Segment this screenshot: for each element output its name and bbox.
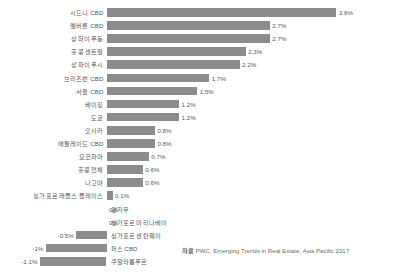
category-label: 싱가포르 마리나베이 (111, 216, 167, 229)
bar (107, 165, 143, 174)
category-label: 도쿄 (91, 111, 103, 124)
value-label: 2.3% (248, 45, 262, 58)
chart-bar-row: 서울 CBD1.5% (0, 85, 393, 98)
category-label: 싱가포르 래플스 플레이스 (33, 189, 103, 202)
category-label: 상하이 푸동 (71, 32, 103, 45)
bar (76, 231, 106, 240)
bar (107, 47, 246, 56)
category-label: 상하이 푸시 (71, 58, 103, 71)
value-label: 0.7% (151, 150, 165, 163)
chart-bar-row: 홍콩 전체0.6% (0, 163, 393, 176)
chart-bar-row: 베이징1.2% (0, 98, 393, 111)
category-label: 베이징 (85, 98, 103, 111)
bar (107, 139, 155, 148)
bar-track (0, 255, 393, 268)
bar (107, 21, 270, 30)
category-label: 싱가포르 센탄웨이 (111, 229, 161, 242)
category-label: 요코하마 (79, 150, 103, 163)
bar (107, 191, 113, 200)
bar (107, 8, 337, 17)
source-text: PWC, Emerging Trends in Real Estate, Asi… (196, 247, 349, 254)
source-tag: 자료 (182, 247, 194, 254)
chart-bar-row: 광저우0% (0, 203, 393, 216)
chart-bar-row: 상하이 푸시2.2% (0, 58, 393, 71)
bar-track (0, 216, 393, 229)
chart-bar-row: 상하이 푸동2.7% (0, 32, 393, 45)
bar-track (0, 124, 393, 137)
chart-bar-row: 싱가포르 센탄웨이-0.5% (0, 229, 393, 242)
source-citation: 자료 PWC, Emerging Trends in Real Estate, … (182, 246, 349, 255)
bar (107, 178, 143, 187)
chart-bar-row: 싱가포르 마리나베이0% (0, 216, 393, 229)
bar (107, 100, 180, 109)
chart-bar-row: 요코하마0.7% (0, 150, 393, 163)
bar-track (0, 98, 393, 111)
chart-bar-row: 싱가포르 래플스 플레이스0.1% (0, 189, 393, 202)
bar-track (0, 6, 393, 19)
bar (107, 113, 180, 122)
bar-track (0, 163, 393, 176)
value-label: 0.8% (157, 124, 171, 137)
chart-bar-row: 애들레이드 CBD0.8% (0, 137, 393, 150)
bar-track (0, 72, 393, 85)
bar (107, 126, 155, 135)
bar-track (0, 19, 393, 32)
value-label: 0.6% (145, 176, 159, 189)
category-label: 서울 CBD (76, 85, 103, 98)
value-label: 0% (109, 203, 118, 216)
value-label: 0% (109, 216, 118, 229)
category-label: 나고야 (85, 176, 103, 189)
value-label: -1.1% (21, 255, 37, 268)
bar-track (0, 176, 393, 189)
value-label: 0.8% (157, 137, 171, 150)
bar-track (0, 111, 393, 124)
value-label: 0.6% (145, 163, 159, 176)
chart-bar-row: 홍콩 센트럴2.3% (0, 45, 393, 58)
category-label: 홍콩 센트럴 (71, 45, 103, 58)
category-label: 퍼스 CBD (111, 242, 138, 255)
category-label: 쿠알라룸푸르 (111, 255, 147, 268)
chart-bar-row: 나고야0.6% (0, 176, 393, 189)
bar-track (0, 32, 393, 45)
category-label: 멜버른 CBD (70, 19, 103, 32)
chart-bar-row: 멜버른 CBD2.7% (0, 19, 393, 32)
value-label: 2.7% (272, 19, 286, 32)
chart-bar-row: 도쿄1.2% (0, 111, 393, 124)
category-label: 오사카 (85, 124, 103, 137)
value-label: 3.8% (339, 6, 353, 19)
chart-bar-row: 오사카0.8% (0, 124, 393, 137)
value-label: -0.5% (58, 229, 74, 242)
category-label: 시드니 CBD (70, 6, 103, 19)
bar (107, 152, 149, 161)
bar-track (0, 85, 393, 98)
bar-track (0, 150, 393, 163)
bar (107, 87, 198, 96)
bar (40, 257, 107, 266)
bar-track (0, 45, 393, 58)
category-label: 애들레이드 CBD (58, 137, 103, 150)
value-label: 1.2% (182, 98, 196, 111)
value-label: 1.7% (212, 72, 226, 85)
chart-bar-row: 시드니 CBD3.8% (0, 6, 393, 19)
bar-track (0, 58, 393, 71)
value-label: 0.1% (115, 189, 129, 202)
bar (107, 74, 210, 83)
value-label: 1.2% (182, 111, 196, 124)
value-label: 1.5% (200, 85, 214, 98)
value-label: 2.7% (272, 32, 286, 45)
value-label: 2.2% (242, 58, 256, 71)
bar (46, 244, 107, 253)
category-label: 브리즈번 CBD (64, 72, 103, 85)
bar-track (0, 203, 393, 216)
chart-bar-row: 쿠알라룸푸르-1.1% (0, 255, 393, 268)
value-label: -1% (32, 242, 43, 255)
chart-bar-row: 브리즈번 CBD1.7% (0, 72, 393, 85)
category-label: 홍콩 전체 (78, 163, 104, 176)
horizontal-bar-chart: 시드니 CBD3.8%멜버른 CBD2.7%상하이 푸동2.7%홍콩 센트럴2.… (0, 0, 393, 272)
bar (107, 60, 240, 69)
bar (107, 34, 270, 43)
